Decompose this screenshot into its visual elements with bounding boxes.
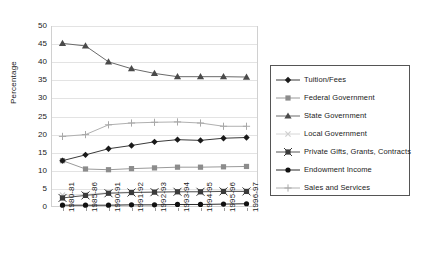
line-chart: Percentage 05101520253035404550 1980-811…	[0, 0, 435, 279]
x-tick-label: 1991-92	[136, 182, 145, 212]
legend-item-local-government[interactable]: Local Government	[275, 127, 409, 141]
legend-marker-square-icon	[275, 91, 301, 105]
x-tick-mark	[155, 208, 156, 211]
x-tick-label: 1993-94	[182, 182, 191, 212]
plot-area	[51, 26, 258, 207]
legend-marker-circle-icon	[275, 163, 301, 177]
gridline	[52, 135, 257, 136]
y-tick-label: 25	[21, 113, 47, 121]
x-tick-label: 1985-86	[90, 182, 99, 212]
x-tick-label: 1992-93	[159, 182, 168, 212]
x-tick-mark	[247, 208, 248, 211]
gridline	[52, 62, 257, 63]
x-tick-mark	[201, 208, 202, 211]
chart-legend: Tuition/FeesFederal GovernmentState Gove…	[270, 65, 410, 196]
x-tick-mark	[63, 208, 64, 211]
legend-item-sales-and-services[interactable]: Sales and Services	[275, 181, 409, 195]
data-point-plus	[284, 184, 291, 191]
y-tick-label: 50	[21, 22, 47, 30]
y-tick-label: 10	[21, 167, 47, 175]
legend-label: State Government	[304, 111, 366, 120]
y-tick-label: 20	[21, 131, 47, 139]
data-point-circle	[285, 167, 290, 172]
x-tick-mark	[132, 208, 133, 211]
legend-label: Private Gifts, Grants, Contracts	[304, 147, 411, 156]
x-tick-mark	[109, 208, 110, 211]
gridline	[52, 153, 257, 154]
legend-marker-triangle-icon	[275, 109, 301, 123]
gridline	[52, 80, 257, 81]
y-tick-label: 45	[21, 40, 47, 48]
legend-marker-plus-icon	[275, 181, 301, 195]
gridline	[52, 98, 257, 99]
legend-marker-diamond-icon	[275, 73, 301, 87]
y-tick-label: 0	[21, 203, 47, 211]
data-point-diamond	[285, 77, 291, 83]
gridline	[52, 189, 257, 190]
y-tick-label: 40	[21, 58, 47, 66]
x-tick-label: 1994-95	[205, 182, 214, 212]
legend-label: Sales and Services	[304, 183, 370, 192]
y-tick-label: 30	[21, 94, 47, 102]
x-tick-label: 1996-97	[251, 182, 260, 212]
legend-item-endowment-income[interactable]: Endowment Income	[275, 163, 409, 177]
legend-item-state-government[interactable]: State Government	[275, 109, 409, 123]
legend-label: Federal Government	[304, 93, 375, 102]
y-tick-label: 5	[21, 185, 47, 193]
legend-item-federal-government[interactable]: Federal Government	[275, 91, 409, 105]
x-tick-mark	[178, 208, 179, 211]
y-axis-title: Percentage	[9, 40, 18, 126]
legend-item-tuition-fees[interactable]: Tuition/Fees	[275, 73, 409, 87]
y-axis-tick-labels: 05101520253035404550	[19, 0, 47, 279]
x-tick-label: 1980-81	[67, 182, 76, 212]
legend-marker-square-x-icon	[275, 145, 301, 159]
legend-item-private-gifts-grants-contracts[interactable]: Private Gifts, Grants, Contracts	[275, 145, 409, 159]
y-tick-label: 15	[21, 149, 47, 157]
gridline	[52, 44, 257, 45]
legend-label: Tuition/Fees	[304, 75, 346, 84]
legend-marker-cross-x-icon	[275, 127, 301, 141]
x-tick-label: 1990-91	[113, 182, 122, 212]
x-tick-mark	[224, 208, 225, 211]
gridline	[52, 117, 257, 118]
gridline	[52, 171, 257, 172]
y-tick-label: 35	[21, 76, 47, 84]
gridline	[52, 26, 257, 27]
x-axis-tick-labels: 1980-811985-861990-911991-921992-931993-…	[51, 208, 258, 278]
x-tick-label: 1995-96	[228, 182, 237, 212]
legend-label: Local Government	[304, 129, 367, 138]
data-point-square	[285, 95, 290, 100]
legend-label: Endowment Income	[304, 165, 372, 174]
x-tick-mark	[86, 208, 87, 211]
